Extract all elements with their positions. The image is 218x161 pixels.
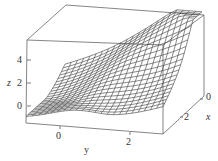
x-axis-label: x (206, 112, 210, 122)
z-axis-label: z (7, 78, 11, 88)
y-tick-2: 2 (126, 137, 131, 147)
mesh-line-v (35, 88, 172, 109)
z-tick-2: 2 (17, 78, 22, 88)
z-tick-0: 0 (17, 101, 22, 111)
x-tick-0: 0 (206, 92, 211, 102)
z-tick-4: 4 (17, 55, 22, 65)
y-tick-0: 0 (56, 131, 61, 141)
x-tick-2: 2 (184, 112, 189, 122)
mesh-line-v (62, 14, 199, 72)
mesh-line-v (65, 10, 202, 64)
surface-plot (0, 0, 218, 161)
axis-ticks (27, 60, 203, 135)
y-axis-label: y (84, 145, 89, 155)
surface-mesh (26, 10, 202, 117)
